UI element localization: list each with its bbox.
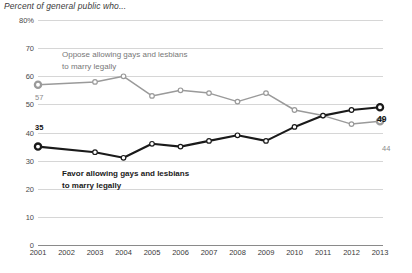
data-point-marker [377,104,383,110]
data-point-marker [93,80,98,85]
data-point-marker [207,139,212,144]
data-point-marker [121,156,126,161]
data-point-marker [264,139,269,144]
data-point-marker [178,144,183,149]
data-point-marker [93,150,98,155]
y-tick-label: 80% [19,16,34,25]
x-tick-label: 2004 [115,248,132,257]
x-tick-label: 2009 [258,248,275,257]
data-label-oppose-2013: 44 [382,144,390,153]
data-point-marker [292,125,297,130]
y-tick-label: 60 [26,72,34,81]
y-tick-label: 40 [26,128,34,137]
data-point-marker [35,144,41,150]
x-axis-line [38,245,383,246]
y-tick-label: 70 [26,44,34,53]
y-tick-label: 50 [26,100,34,109]
data-point-marker [150,142,155,147]
x-tick-label: 2011 [315,248,331,257]
series-paths [35,74,383,160]
data-point-marker [178,88,183,93]
data-point-marker [35,82,41,88]
data-point-marker [292,108,297,113]
data-point-marker [235,99,240,104]
x-tick-label: 2010 [286,248,303,257]
data-point-marker [377,118,383,124]
x-tick-label: 2013 [372,248,389,257]
x-tick-label: 2008 [229,248,246,257]
series-line [38,107,380,158]
data-point-marker [207,91,212,96]
plot-area: 80%706050403020100 200120022003200420052… [38,20,383,245]
y-tick-label: 30 [26,156,34,165]
data-point-marker [349,108,354,113]
chart-title: Percent of general public who... [4,1,126,11]
data-point-marker [349,122,354,127]
series-layer [38,20,383,245]
y-tick-label: 20 [26,184,34,193]
y-tick-label: 10 [26,212,34,221]
series-line [38,76,380,124]
data-point-marker [121,74,126,79]
data-point-marker [150,94,155,99]
x-tick-label: 2002 [58,248,75,257]
x-tick-label: 2001 [30,248,47,257]
data-point-marker [321,113,326,118]
x-tick-label: 2007 [201,248,218,257]
chart-container: Percent of general public who... 80%7060… [0,0,412,273]
data-point-marker [235,133,240,138]
x-tick-label: 2012 [343,248,360,257]
x-tick-label: 2003 [87,248,104,257]
x-tick-label: 2005 [144,248,161,257]
x-tick-label: 2006 [172,248,189,257]
data-point-marker [264,91,269,96]
